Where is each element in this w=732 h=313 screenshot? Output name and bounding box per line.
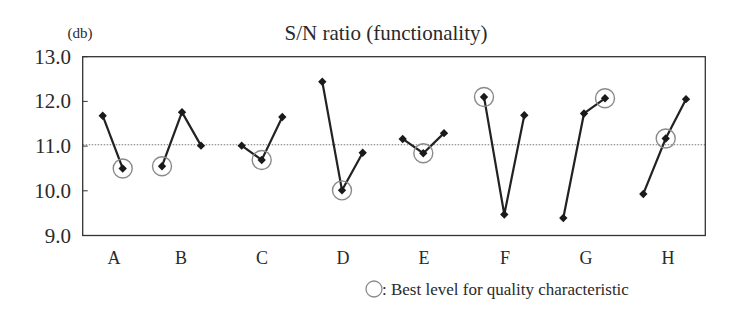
- diamond-marker-icon: [278, 113, 286, 121]
- y-tick-label: 9.0: [45, 224, 71, 248]
- diamond-marker-icon: [662, 134, 670, 142]
- y-axis-unit-label: (db): [68, 25, 93, 42]
- factor-d-series: [318, 78, 367, 200]
- diamond-marker-icon: [197, 141, 205, 149]
- category-label-a: A: [108, 248, 121, 268]
- category-label-f: F: [500, 248, 510, 268]
- x-axis-category-labels: ABCDEFGH: [108, 248, 675, 268]
- y-tick-label: 10.0: [34, 179, 71, 203]
- sn-ratio-chart: S/N ratio (functionality) (db) 13.012.01…: [0, 0, 732, 313]
- best-level-circle-icon: [366, 281, 382, 297]
- y-axis-ticks: 13.012.011.010.09.0: [34, 45, 87, 248]
- factor-h-series: [639, 95, 690, 198]
- diamond-marker-icon: [520, 111, 528, 119]
- diamond-marker-icon: [639, 190, 647, 198]
- diamond-marker-icon: [99, 112, 107, 120]
- category-label-b: B: [175, 248, 187, 268]
- diamond-marker-icon: [158, 162, 166, 170]
- diamond-marker-icon: [338, 186, 346, 194]
- category-label-d: D: [337, 248, 350, 268]
- chart-title: S/N ratio (functionality): [285, 21, 488, 45]
- y-tick-label: 12.0: [34, 89, 71, 113]
- plot-area-frame: [83, 57, 706, 236]
- y-tick-label: 11.0: [35, 134, 71, 158]
- factor-b-series: [153, 108, 206, 176]
- category-label-g: G: [580, 248, 593, 268]
- diamond-marker-icon: [119, 164, 127, 172]
- diamond-marker-icon: [682, 95, 690, 103]
- diamond-marker-icon: [318, 78, 326, 86]
- diamond-marker-icon: [500, 210, 508, 218]
- factor-series: [99, 78, 691, 223]
- category-label-e: E: [419, 248, 430, 268]
- category-label-h: H: [662, 248, 675, 268]
- y-tick-label: 13.0: [34, 45, 71, 69]
- factor-f-series: [475, 87, 529, 218]
- factor-c-series: [238, 113, 287, 170]
- category-label-c: C: [256, 248, 268, 268]
- factor-line: [643, 99, 686, 194]
- factor-line: [484, 97, 524, 215]
- legend: : Best level for quality characteristic: [366, 280, 629, 299]
- factor-a-series: [99, 112, 133, 178]
- diamond-marker-icon: [359, 149, 367, 157]
- factor-g-series: [559, 89, 614, 222]
- diamond-marker-icon: [559, 214, 567, 222]
- factor-line: [242, 117, 283, 160]
- factor-line: [322, 82, 362, 191]
- diamond-marker-icon: [480, 93, 488, 101]
- legend-label: : Best level for quality characteristic: [382, 280, 629, 299]
- factor-line: [103, 116, 123, 169]
- factor-e-series: [399, 129, 449, 163]
- diamond-marker-icon: [178, 108, 186, 116]
